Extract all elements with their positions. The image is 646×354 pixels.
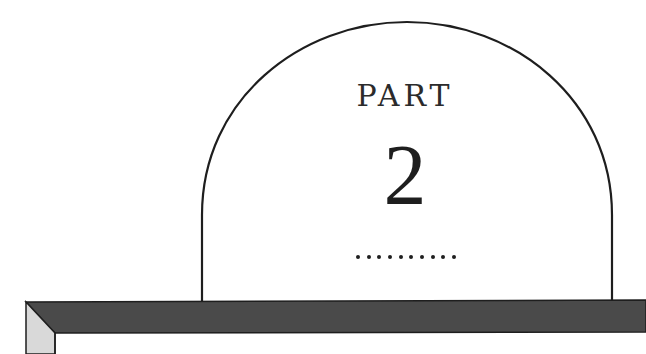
ornament-dot	[452, 255, 456, 259]
part-label: PART	[300, 78, 510, 113]
part-number: 2	[300, 132, 510, 218]
ornament-dot	[409, 255, 413, 259]
frame-top-bar	[26, 300, 646, 333]
ornament-dot	[377, 255, 381, 259]
ornament-dot	[367, 255, 371, 259]
ornament-dot	[431, 255, 435, 259]
dotted-ornament	[356, 253, 456, 261]
ornament-dot	[356, 255, 360, 259]
ornament-dot	[388, 255, 392, 259]
ornament-dot	[420, 255, 424, 259]
ornament-dot	[441, 255, 445, 259]
ornament-dot	[399, 255, 403, 259]
